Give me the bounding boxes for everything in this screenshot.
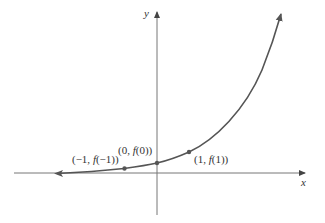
x-axis-label: x xyxy=(300,176,306,188)
point-1 xyxy=(187,150,191,154)
exponential-curve xyxy=(57,14,281,174)
y-axis-label: y xyxy=(143,7,149,19)
label-point-1: (1, f(1)) xyxy=(194,153,229,166)
point-neg1 xyxy=(122,166,126,170)
label-point-0: (0, f(0)) xyxy=(118,144,153,157)
exponential-graph: x y (−1, f(−1)) (0, f(0)) (1, f(1)) xyxy=(0,0,325,223)
point-0 xyxy=(155,161,159,165)
label-point-neg1: (−1, f(−1)) xyxy=(72,153,119,166)
